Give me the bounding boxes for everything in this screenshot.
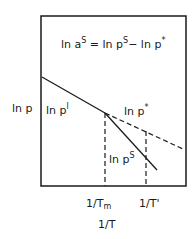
y-axis-label: ln p xyxy=(12,103,33,114)
x-axis-label: 1/T xyxy=(98,219,115,230)
liquid-curve-label: ln pl xyxy=(46,103,69,116)
solid-curve-label: ln pS xyxy=(109,152,135,165)
x-tick-t-prime: 1/T' xyxy=(139,198,159,209)
supercooled-liquid-dashed-line xyxy=(105,113,183,149)
equation: ln aS = ln pS− ln p* xyxy=(61,37,165,50)
x-tick-melting-point: 1/Tm xyxy=(86,198,111,211)
supercooled-curve-label: ln p* xyxy=(124,104,149,117)
